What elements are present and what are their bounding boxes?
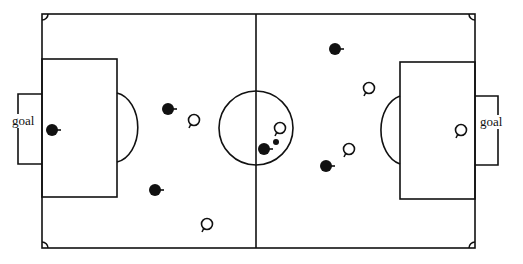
- player-hollow: [456, 125, 467, 139]
- corner-arc-br: [469, 242, 475, 248]
- player-filled: [320, 160, 335, 172]
- player-hollow: [275, 123, 286, 137]
- left-goal: [18, 94, 42, 164]
- corner-arc-tr: [469, 14, 475, 20]
- left-goal-label: goal: [11, 114, 35, 128]
- soccer-field: [0, 0, 523, 264]
- left-penalty-arc: [117, 93, 138, 162]
- right-goal-label: goal: [479, 115, 503, 129]
- corner-arc-bl: [42, 242, 48, 248]
- player-hollow: [344, 144, 355, 158]
- player-hollow: [202, 219, 213, 233]
- right-goal: [475, 96, 498, 165]
- player-filled: [258, 143, 273, 155]
- corner-arc-tl: [42, 14, 48, 20]
- ball: [273, 139, 279, 145]
- player-hollow: [364, 83, 375, 97]
- player-filled: [162, 103, 177, 115]
- field-boundary: [42, 14, 475, 248]
- player-filled: [149, 184, 164, 196]
- player-hollow: [189, 115, 200, 129]
- right-penalty-arc: [381, 96, 400, 164]
- player-filled: [46, 124, 61, 136]
- player-filled: [329, 43, 344, 55]
